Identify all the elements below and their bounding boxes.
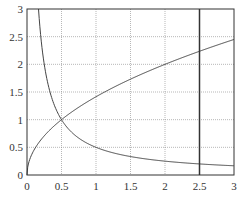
y-tick-label: 0.5: [9, 141, 23, 153]
y-axis-ticks: 00.511.522.53: [9, 3, 23, 181]
x-tick-label: 1: [93, 180, 99, 192]
x-tick-label: 1.5: [124, 180, 138, 192]
x-tick-label: 3: [231, 180, 237, 192]
series-hyperbola: [39, 9, 234, 166]
x-axis-ticks: 00.511.522.53: [24, 180, 237, 192]
x-tick-label: 0: [24, 180, 30, 192]
grid-lines: [27, 9, 234, 175]
x-tick-label: 0.5: [55, 180, 69, 192]
y-tick-label: 0: [18, 169, 24, 181]
y-tick-label: 2.5: [9, 31, 23, 43]
x-tick-label: 2.5: [193, 180, 207, 192]
y-tick-label: 1.5: [9, 86, 23, 98]
x-tick-label: 2: [162, 180, 168, 192]
y-tick-label: 1: [18, 114, 24, 126]
y-tick-label: 3: [18, 3, 24, 15]
y-tick-label: 2: [18, 58, 24, 70]
line-chart: 00.511.522.53 00.511.522.53: [0, 0, 242, 203]
